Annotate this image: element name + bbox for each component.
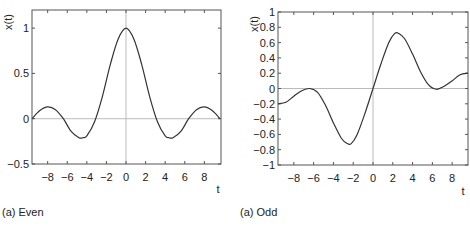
x-tick-label: −2 bbox=[100, 171, 113, 183]
y-tick-label: −1 bbox=[262, 159, 275, 171]
y-tick-label: 0.8 bbox=[260, 21, 275, 33]
y-axis-label: x(t) bbox=[248, 16, 260, 32]
x-tick-label: 8 bbox=[201, 171, 207, 183]
x-tick-label: 2 bbox=[390, 172, 396, 184]
y-tick-label: 1 bbox=[23, 22, 29, 34]
x-tick-label: 4 bbox=[162, 171, 168, 183]
x-tick-label: −4 bbox=[81, 171, 94, 183]
y-tick-label: −0.6 bbox=[253, 128, 275, 140]
y-tick-label: 0.2 bbox=[260, 67, 275, 79]
x-tick-label: −8 bbox=[41, 171, 54, 183]
x-tick-label: −6 bbox=[307, 172, 320, 184]
chart-odd: −8−6−4−202468−1−0.8−0.6−0.4−0.200.20.40.… bbox=[248, 6, 468, 197]
x-tick-label: 2 bbox=[143, 171, 149, 183]
x-tick-label: −6 bbox=[61, 171, 74, 183]
y-tick-label: 0.6 bbox=[260, 37, 275, 49]
x-tick-label: 0 bbox=[370, 172, 376, 184]
y-tick-label: 0 bbox=[23, 113, 29, 125]
x-tick-label: 6 bbox=[182, 171, 188, 183]
caption-odd: (a) Odd bbox=[240, 206, 277, 218]
y-axis-label: x(t) bbox=[2, 14, 14, 30]
x-tick-label: 0 bbox=[123, 171, 129, 183]
x-tick-label: 4 bbox=[410, 172, 416, 184]
y-tick-label: −0.2 bbox=[253, 98, 275, 110]
x-tick-label: 8 bbox=[449, 172, 455, 184]
caption-even: (a) Even bbox=[2, 206, 44, 218]
x-tick-label: 6 bbox=[429, 172, 435, 184]
y-tick-label: 0.5 bbox=[14, 67, 29, 79]
charts-canvas: −8−6−4−202468−0.500.51tx(t)−8−6−4−202468… bbox=[0, 0, 470, 231]
y-tick-label: 0.4 bbox=[260, 52, 275, 64]
y-tick-label: 0 bbox=[269, 83, 275, 95]
y-tick-label: −0.4 bbox=[253, 113, 275, 125]
x-tick-label: −2 bbox=[347, 172, 360, 184]
x-tick-label: −8 bbox=[288, 172, 301, 184]
y-tick-label: −0.5 bbox=[7, 158, 29, 170]
x-tick-label: −4 bbox=[327, 172, 340, 184]
chart-even: −8−6−4−202468−0.500.51tx(t) bbox=[2, 10, 221, 195]
y-tick-label: 1 bbox=[269, 6, 275, 18]
x-axis-label: t bbox=[461, 185, 464, 197]
x-axis-label: t bbox=[216, 183, 219, 195]
y-tick-label: −0.8 bbox=[253, 144, 275, 156]
